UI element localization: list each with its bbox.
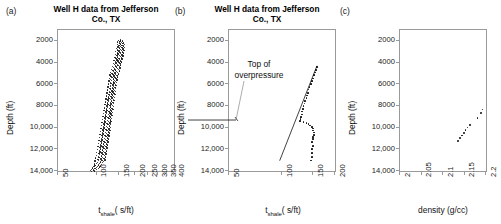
data-point: [316, 66, 318, 68]
data-point: [312, 78, 314, 80]
data-point: [457, 140, 459, 142]
data-point: [97, 149, 98, 150]
x-axis-tick-mark: [96, 172, 97, 175]
x-axis-tick-label: 250: [150, 164, 159, 177]
data-point: [123, 50, 124, 51]
y-axis-tick-mark: [54, 40, 57, 41]
panel-c-tag: (c): [340, 6, 350, 16]
y-axis-tick-label: 14,000: [356, 166, 395, 175]
y-axis-tick-label: 4000: [185, 57, 224, 66]
data-point: [108, 138, 109, 139]
y-axis-tick-label: 8000: [185, 100, 224, 109]
y-axis-tick-mark: [396, 148, 399, 149]
y-axis-tick-label: 2000: [185, 35, 224, 44]
x-axis-tick-mark: [157, 172, 158, 175]
y-axis-tick-mark: [396, 62, 399, 63]
x-axis-tick-label: 2.15: [467, 162, 476, 177]
y-axis-tick-label: 8000: [14, 100, 53, 109]
data-point: [108, 135, 109, 136]
x-axis-tick-mark: [399, 172, 400, 175]
data-point: [311, 152, 313, 154]
x-axis-tick-label: 2.1: [446, 166, 455, 177]
data-point: [306, 95, 308, 97]
y-axis-tick-mark: [225, 127, 228, 128]
data-point: [109, 130, 110, 131]
y-axis-tick-mark: [54, 83, 57, 84]
y-axis-tick-label: 14,000: [14, 166, 53, 175]
panel-a-title-line1: Well H data from Jefferson: [32, 4, 180, 15]
data-point: [117, 41, 118, 42]
panel-a: (a) Well H data from Jefferson Co., TX D…: [0, 0, 180, 224]
data-point: [107, 144, 108, 145]
y-axis-tick-mark: [396, 83, 399, 84]
data-point: [313, 74, 315, 76]
y-axis-tick-label: 6000: [356, 79, 395, 88]
y-axis-tick-label: 10,000: [14, 122, 53, 131]
x-axis-tick-mark: [57, 172, 58, 175]
x-axis-tick-label: 2.05: [424, 162, 433, 177]
y-axis-tick-mark: [54, 127, 57, 128]
x-axis-tick-mark: [485, 172, 486, 175]
data-point: [105, 153, 106, 154]
y-axis-tick-label: 2000: [14, 35, 53, 44]
x-axis-tick-label: 50: [61, 169, 70, 177]
x-axis-tick-mark: [147, 172, 148, 175]
x-axis-tick-label: 200: [138, 164, 147, 177]
data-point: [109, 132, 110, 133]
panel-b-tag: (b): [175, 6, 185, 16]
y-axis-tick-mark: [396, 105, 399, 106]
panel-b-title-line1: Well H data from Jefferson: [194, 4, 340, 15]
data-point: [299, 120, 301, 122]
y-axis-tick-mark: [54, 62, 57, 63]
panel-b: (b) Well H data from Jefferson Co., TX D…: [170, 0, 340, 224]
data-point: [311, 156, 313, 158]
data-point: [312, 138, 314, 140]
data-point: [119, 70, 120, 71]
y-axis-tick-label: 6000: [185, 79, 224, 88]
x-axis-tick-mark: [312, 172, 313, 175]
x-axis-tick-mark: [281, 172, 282, 175]
y-axis-tick-label: 2000: [356, 35, 395, 44]
y-axis-tick-label: 10,000: [185, 122, 224, 131]
data-point: [91, 169, 92, 170]
panel-a-title-line2: Co., TX: [32, 14, 180, 25]
y-axis-tick-mark: [396, 170, 399, 171]
data-point: [118, 73, 119, 74]
data-point: [119, 67, 120, 68]
y-axis-tick-label: 4000: [356, 57, 395, 66]
data-point: [459, 137, 461, 139]
panel-b-xlabel: tshale( s/ft): [222, 205, 344, 217]
data-point: [110, 121, 111, 122]
data-point: [307, 92, 309, 94]
y-axis-tick-mark: [396, 127, 399, 128]
y-axis-tick-mark: [225, 105, 228, 106]
x-axis-tick-mark: [118, 172, 119, 175]
y-axis-tick-mark: [225, 62, 228, 63]
panel-c-plot-area: [399, 29, 487, 172]
x-axis-tick-mark: [442, 172, 443, 175]
panel-b-title-line2: Co., TX: [194, 14, 340, 25]
x-axis-tick-label: 2: [403, 173, 412, 177]
data-point: [311, 80, 313, 82]
y-axis-tick-mark: [225, 148, 228, 149]
y-axis-tick-label: 10,000: [356, 122, 395, 131]
data-point: [301, 114, 303, 116]
data-point: [108, 83, 109, 84]
data-point: [122, 55, 123, 56]
data-point: [463, 132, 465, 134]
panel-b-plot-area: [228, 29, 336, 172]
x-axis-tick-mark: [166, 172, 167, 175]
x-axis-tick-mark: [464, 172, 465, 175]
panel-c: (c) Depth (ft) density (g/cc) 2000400060…: [338, 0, 491, 224]
data-point: [469, 124, 471, 126]
data-point: [104, 159, 105, 160]
data-point: [306, 97, 308, 99]
x-axis-tick-label: 100: [285, 164, 294, 177]
data-point: [111, 115, 112, 116]
data-point: [116, 79, 117, 80]
y-axis-tick-label: 4000: [14, 57, 53, 66]
y-axis-tick-mark: [225, 170, 228, 171]
y-axis-tick-label: 14,000: [185, 166, 224, 175]
y-axis-tick-label: 6000: [14, 79, 53, 88]
